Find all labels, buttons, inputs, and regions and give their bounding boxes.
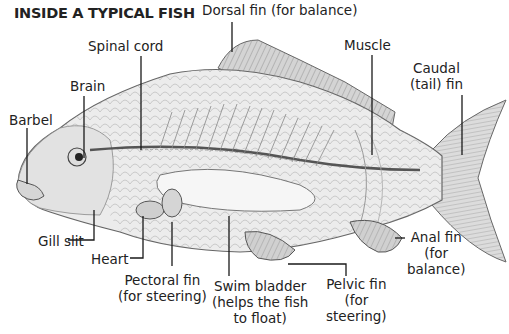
label-dorsal-fin: Dorsal fin (for balance) xyxy=(202,2,357,18)
diagram-title: INSIDE A TYPICAL FISH xyxy=(14,5,195,21)
label-pelvic-fin-line1: Pelvic fin xyxy=(326,276,387,292)
label-anal-fin-line3: balance) xyxy=(407,261,465,277)
label-anal-fin: Anal fin (for balance) xyxy=(407,229,465,277)
label-gill-slit: Gill slit xyxy=(38,233,84,249)
label-spinal-cord: Spinal cord xyxy=(88,38,163,54)
label-pelvic-fin-line3: steering) xyxy=(326,308,387,324)
label-barbel: Barbel xyxy=(9,112,53,128)
label-muscle: Muscle xyxy=(344,37,391,53)
label-swim-bladder-line2: (helps the fish xyxy=(212,294,308,310)
label-pectoral-fin-line2: (for steering) xyxy=(118,288,207,304)
label-pectoral-fin-line1: Pectoral fin xyxy=(118,272,207,288)
label-swim-bladder-line1: Swim bladder xyxy=(212,278,308,294)
label-pectoral-fin: Pectoral fin (for steering) xyxy=(118,272,207,304)
label-pelvic-fin: Pelvic fin (for steering) xyxy=(326,276,387,324)
label-caudal-fin: Caudal (tail) fin xyxy=(410,60,463,92)
label-caudal-fin-line1: Caudal xyxy=(410,60,463,76)
label-swim-bladder-line3: to float) xyxy=(212,310,308,326)
label-anal-fin-line1: Anal fin xyxy=(407,229,465,245)
label-pelvic-fin-line2: (for xyxy=(326,292,387,308)
label-caudal-fin-line2: (tail) fin xyxy=(410,76,463,92)
label-swim-bladder: Swim bladder (helps the fish to float) xyxy=(212,278,308,326)
label-heart: Heart xyxy=(91,251,129,267)
label-anal-fin-line2: (for xyxy=(407,245,465,261)
label-brain: Brain xyxy=(70,78,105,94)
